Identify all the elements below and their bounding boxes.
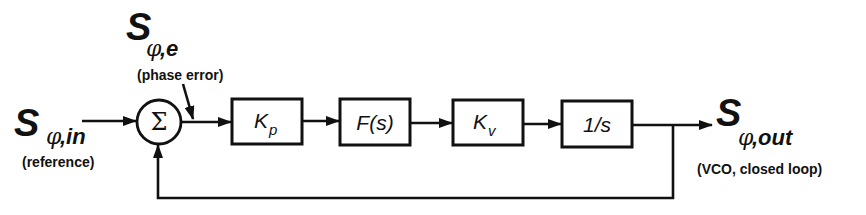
block-kv: K v (453, 100, 523, 145)
summing-junction: Σ (137, 100, 181, 144)
output-signal-note: (VCO, closed loop) (697, 161, 822, 177)
output-signal-label: S φ ,out (VCO, closed loop) (697, 92, 822, 177)
error-signal-label: S φ ,e (phase error) (126, 6, 223, 83)
input-signal-symbol: S (14, 102, 39, 144)
block-kp: K p (232, 99, 302, 144)
block-fs-main: F(s) (356, 111, 393, 134)
sigma-icon: Σ (151, 108, 168, 136)
input-signal-subscript: ,in (59, 124, 86, 149)
block-kp-main: K (254, 109, 269, 132)
phase-error-pointer-arrow (183, 84, 193, 119)
input-signal-label: S φ ,in (reference) (14, 102, 94, 170)
pll-block-diagram: S φ ,in (reference) S φ ,e (phase error)… (0, 0, 866, 215)
block-fs: F(s) (340, 99, 410, 145)
error-signal-note: (phase error) (137, 67, 223, 83)
block-kv-main: K (473, 110, 488, 133)
error-signal-subscript: ,e (159, 36, 178, 61)
block-integrator: 1/s (562, 101, 632, 147)
input-signal-note: (reference) (22, 154, 94, 170)
block-kp-sub: p (268, 121, 277, 138)
block-integrator-main: 1/s (583, 113, 612, 136)
output-signal-subscript: ,out (751, 125, 794, 150)
